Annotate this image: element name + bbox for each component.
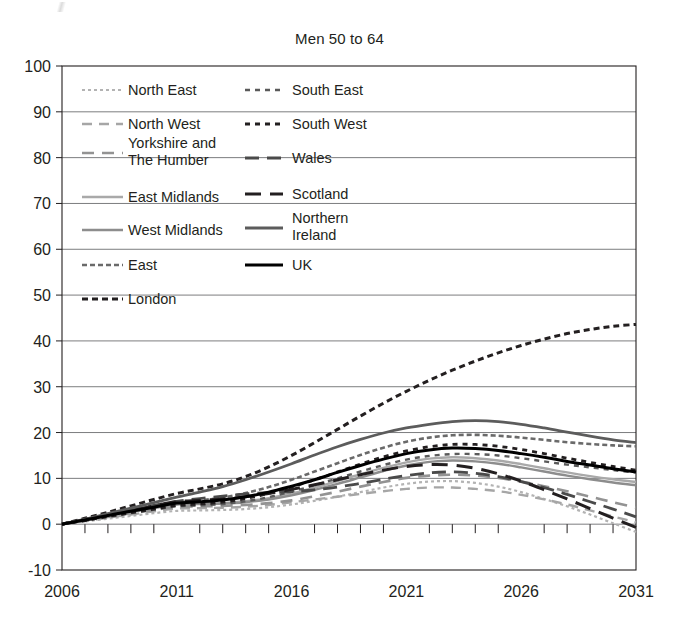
series-line: [62, 475, 636, 524]
legend-label-line: Northern: [292, 210, 348, 226]
chart-plot-area: -100102030405060708090100 20062011201620…: [0, 0, 679, 644]
x-tick-label: 2031: [618, 583, 654, 600]
legend-label: Scotland: [292, 186, 348, 202]
legend-label-line: Yorkshire and: [128, 135, 216, 151]
y-tick-label: 90: [33, 104, 51, 121]
legend-label: East: [128, 257, 157, 273]
legend-label: West Midlands: [128, 222, 223, 238]
legend-label: UK: [292, 257, 312, 273]
legend-label-line: East Midlands: [128, 189, 219, 205]
legend-label-line: East: [128, 257, 157, 273]
legend-label-line: North West: [128, 116, 200, 132]
y-tick-label: 10: [33, 470, 51, 487]
x-tick-label: 2021: [389, 583, 425, 600]
legend-label: South East: [292, 82, 363, 98]
legend-label: London: [128, 291, 176, 307]
legend-label: North East: [128, 82, 197, 98]
legend-label-line: South East: [292, 82, 363, 98]
legend-label-line: London: [128, 291, 176, 307]
legend-label-line: Ireland: [292, 227, 336, 243]
y-tick-label: 0: [42, 516, 51, 533]
gridlines-group: [62, 112, 636, 524]
y-tick-label: 40: [33, 333, 51, 350]
legend-label: East Midlands: [128, 189, 219, 205]
y-axis-labels-group: -100102030405060708090100: [24, 58, 51, 579]
legend-label-line: West Midlands: [128, 222, 223, 238]
legend-label-line: North East: [128, 82, 197, 98]
x-tick-label: 2016: [274, 583, 310, 600]
y-tick-label: 30: [33, 379, 51, 396]
legend-label: South West: [292, 116, 367, 132]
legend-label-line: Wales: [292, 150, 332, 166]
legend-label-line: The Humber: [128, 152, 209, 168]
chart-figure: Men 50 to 64 -100102030405060708090100 2…: [0, 0, 679, 644]
data-series-group: [62, 324, 636, 532]
legend-label: North West: [128, 116, 200, 132]
legend-label-line: UK: [292, 257, 312, 273]
y-tick-label: 20: [33, 425, 51, 442]
y-tick-label: 70: [33, 195, 51, 212]
y-tick-label: 50: [33, 287, 51, 304]
x-axis-labels-group: 200620112016202120262031: [44, 583, 654, 600]
y-tick-label: 60: [33, 241, 51, 258]
chart-legend: North EastNorth WestYorkshire andThe Hum…: [82, 82, 367, 307]
y-tick-label: -10: [28, 562, 51, 579]
x-tick-label: 2006: [44, 583, 80, 600]
legend-label-line: Scotland: [292, 186, 348, 202]
x-tick-label: 2011: [160, 583, 195, 600]
y-tick-label: 100: [24, 58, 51, 75]
legend-label-line: South West: [292, 116, 367, 132]
x-tick-label: 2026: [503, 583, 539, 600]
legend-label: NorthernIreland: [292, 210, 348, 243]
legend-label: Yorkshire andThe Humber: [128, 135, 216, 168]
y-tick-label: 80: [33, 150, 51, 167]
legend-label: Wales: [292, 150, 332, 166]
